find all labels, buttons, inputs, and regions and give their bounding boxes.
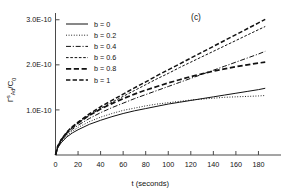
x-tick-label: 120 xyxy=(185,160,197,169)
curve-b-0-6 xyxy=(56,27,266,155)
y-tick-label: 2.0E-10 xyxy=(26,60,51,69)
x-tick-label: 140 xyxy=(207,160,219,169)
x-tick-label: 40 xyxy=(97,160,105,169)
curve-b-1 xyxy=(56,19,266,155)
x-tick-label: 160 xyxy=(230,160,242,169)
panel-label: (c) xyxy=(191,12,201,22)
y-tick-label: 3.0E-10 xyxy=(26,15,51,24)
legend-label-1: b = 0.2 xyxy=(94,31,116,40)
x-tick-label: 80 xyxy=(142,160,150,169)
y-axis-title: ΓsAd/C0 xyxy=(5,78,16,103)
x-tick-label: 0 xyxy=(54,160,58,169)
x-tick-label: 180 xyxy=(252,160,264,169)
axis-lines xyxy=(56,13,282,155)
x-tick-label: 100 xyxy=(162,160,174,169)
legend-label-0: b = 0 xyxy=(94,20,110,29)
figure-panel-c: 0204060801001201401601801.0E-102.0E-103.… xyxy=(0,0,285,191)
legend-label-4: b = 0.8 xyxy=(94,64,116,73)
x-tick-label: 60 xyxy=(119,160,127,169)
curve-b-0 xyxy=(56,88,266,155)
chart-canvas: 0204060801001201401601801.0E-102.0E-103.… xyxy=(0,0,285,191)
y-tick-label: 1.0E-10 xyxy=(26,106,51,115)
x-tick-label: 20 xyxy=(74,160,82,169)
x-axis-title: t (seconds) xyxy=(131,179,169,188)
legend-label-3: b = 0.6 xyxy=(94,53,116,62)
legend-label-5: b = 1 xyxy=(94,76,110,85)
legend-label-2: b = 0.4 xyxy=(94,42,116,51)
curve-b-0-8 xyxy=(56,62,266,155)
